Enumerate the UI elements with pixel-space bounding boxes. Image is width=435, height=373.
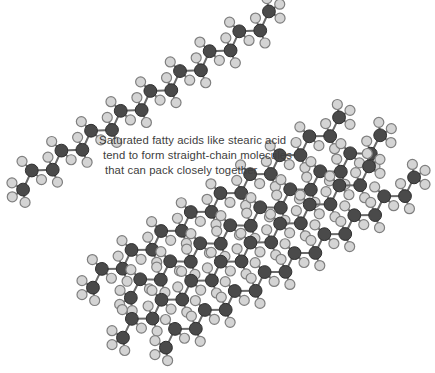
annotation-line-2: tend to form straight-chain molecules xyxy=(103,148,292,163)
molecule-illustration xyxy=(0,0,435,373)
annotation-line-1: Saturated fatty acids like stearic acid xyxy=(99,133,292,148)
annotation-line-3: that can pack closely together xyxy=(105,163,292,178)
annotation-text: Saturated fatty acids like stearic acid … xyxy=(99,133,292,178)
figure-canvas: Saturated fatty acids like stearic acid … xyxy=(0,0,435,373)
